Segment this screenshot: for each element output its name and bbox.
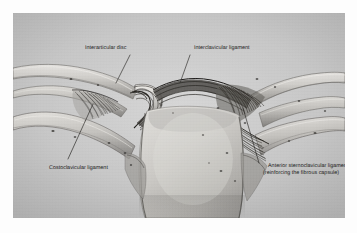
figure-root: Interarticular disc Interclavicular liga… bbox=[0, 0, 357, 233]
manubrium-of-sternum bbox=[139, 106, 245, 218]
label-costoclavicular-ligament: Costoclavicular ligament bbox=[49, 165, 108, 172]
illustration-plate: Interarticular disc Interclavicular liga… bbox=[13, 13, 345, 218]
label-anterior-sternoclavicular-ligament: Anterior sternoclavicular ligament (rein… bbox=[263, 163, 345, 176]
label-interarticular-disc: Interarticular disc bbox=[85, 45, 126, 52]
anatomy-illustration-svg bbox=[13, 13, 345, 218]
label-interclavicular-ligament: Interclavicular ligament bbox=[194, 45, 250, 52]
